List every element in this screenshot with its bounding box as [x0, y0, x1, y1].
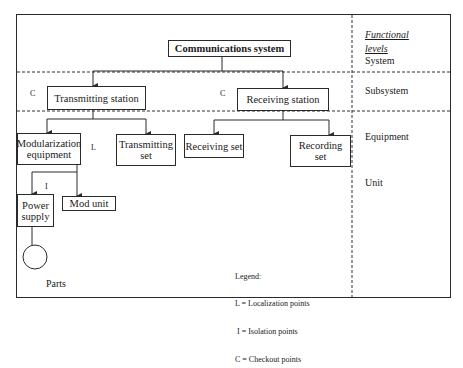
level-subsystem: Subsystem [365, 85, 408, 96]
levels-header-1: Functional [365, 29, 409, 40]
node-receiving-set: Receiving set [184, 134, 244, 158]
marker-i-power: I [45, 182, 48, 191]
legend-title: Legend: [235, 272, 310, 281]
node-transmitting-set: Transmitting set [116, 134, 176, 166]
node-parts: Parts [46, 278, 66, 289]
level-unit: Unit [365, 177, 383, 188]
node-recording-set: Recording set [290, 135, 351, 167]
node-transmitting-station: Transmitting station [47, 86, 146, 110]
node-communications-system: Communications system [168, 40, 291, 57]
level-system: System [365, 55, 394, 66]
marker-c-transmitting: C [30, 89, 35, 98]
legend-item-isolation: I = Isolation points [235, 327, 310, 336]
legend-item-checkout: C = Checkout points [235, 355, 310, 364]
levels-header-2: levels [365, 43, 388, 54]
legend: Legend: L = Localization points I = Isol… [235, 253, 310, 368]
node-mod-unit: Mod unit [62, 196, 116, 211]
node-receiving-station: Receiving station [237, 88, 329, 111]
marker-l-modularization: L [91, 143, 96, 152]
node-power-supply: Power supply [17, 194, 54, 227]
level-equipment: Equipment [365, 131, 409, 142]
marker-c-receiving: C [220, 89, 225, 98]
legend-item-localization: L = Localization points [235, 299, 310, 308]
node-modularization-equipment: Modularization equipment [17, 133, 81, 165]
